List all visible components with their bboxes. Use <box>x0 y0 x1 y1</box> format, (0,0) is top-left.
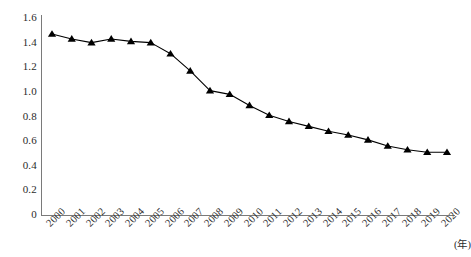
data-point-marker <box>68 35 76 42</box>
data-point-marker <box>107 35 115 42</box>
y-tick-label: 1.6 <box>3 12 37 23</box>
data-point-marker <box>186 67 194 74</box>
data-point-marker <box>364 136 372 143</box>
x-tick-label: 2004 <box>123 206 146 229</box>
data-point-marker <box>48 30 56 37</box>
x-tick-label: 2014 <box>321 206 344 229</box>
x-tick-label: 2013 <box>301 206 324 229</box>
x-tick-label: 2019 <box>419 206 442 229</box>
x-tick-label: 2008 <box>202 206 225 229</box>
x-tick-label: 2007 <box>182 206 205 229</box>
data-point-marker <box>344 131 352 138</box>
x-tick-label: 2000 <box>44 206 67 229</box>
x-tick-label: 2012 <box>281 206 304 229</box>
y-tick-label: 0 <box>3 209 37 220</box>
x-tick-label: 2003 <box>103 206 126 229</box>
x-tick-label: 2005 <box>143 206 166 229</box>
x-tick-label: 2010 <box>242 206 265 229</box>
x-tick-label: 2017 <box>380 206 403 229</box>
data-point-marker <box>265 111 273 118</box>
y-tick-label: 0.4 <box>3 160 37 171</box>
data-point-marker <box>127 38 135 45</box>
data-point-marker <box>87 39 95 46</box>
data-point-marker <box>305 123 313 130</box>
x-axis-unit-label: (年) <box>454 239 471 250</box>
y-tick-label: 0.2 <box>3 184 37 195</box>
data-point-marker <box>384 142 392 149</box>
data-point-marker <box>245 102 253 109</box>
y-tick-label: 1.4 <box>3 37 37 48</box>
x-tick-label: 2015 <box>340 206 363 229</box>
data-point-marker <box>423 148 431 155</box>
x-tick-label: 2009 <box>222 206 245 229</box>
data-point-marker <box>443 148 451 155</box>
x-tick-label: 2006 <box>163 206 186 229</box>
x-tick-label: 2001 <box>64 206 87 229</box>
y-tick-label: 1.0 <box>3 86 37 97</box>
x-tick-label: 2002 <box>84 206 107 229</box>
y-axis-line <box>41 15 42 216</box>
y-tick-label: 1.2 <box>3 61 37 72</box>
x-tick-label: 2020 <box>439 206 462 229</box>
y-axis-tick-labels: 00.20.40.60.81.01.21.41.6 <box>0 0 37 257</box>
x-tick-label: 2018 <box>400 206 423 229</box>
data-point-marker <box>206 87 214 94</box>
x-tick-label: 2011 <box>261 206 284 229</box>
y-tick-label: 0.8 <box>3 111 37 122</box>
data-point-marker <box>166 50 174 57</box>
x-tick-label: 2016 <box>360 206 383 229</box>
series-line <box>52 34 447 152</box>
data-point-marker <box>226 91 234 98</box>
data-point-marker <box>403 146 411 153</box>
y-tick-label: 0.6 <box>3 135 37 146</box>
data-point-marker <box>324 127 332 134</box>
data-point-marker <box>285 118 293 125</box>
data-point-marker <box>147 39 155 46</box>
